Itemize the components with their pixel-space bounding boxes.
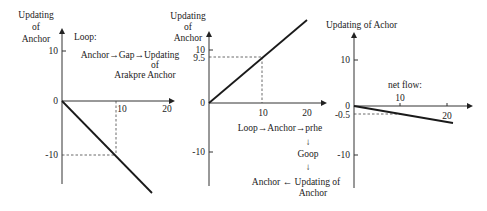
- y-axis-label-line1: Updating: [18, 10, 54, 20]
- x-tick-label-10: 10: [117, 104, 127, 114]
- figure: Updating of Anchor 10 0 -10 10 20 Loop: …: [0, 0, 487, 211]
- loop-heading: Loop:: [74, 32, 97, 42]
- y-axis-label-line3: Anchor: [174, 33, 203, 43]
- x-tick-label-20: 20: [302, 108, 312, 118]
- y-axis-label-line3: Anchor: [22, 34, 51, 44]
- chart-1: Updating of Anchor 10 0 -10 10 20 Loop: …: [18, 10, 179, 193]
- series-line: [354, 106, 453, 123]
- net-flow-label: net flow:: [388, 80, 422, 90]
- loop-text-line1: Anchor→Gap→Updating: [81, 50, 180, 60]
- loop-text-line2: of: [151, 60, 160, 70]
- y-tick-label-9-5: 9.5: [193, 53, 205, 63]
- loop-text-line3: Arakpre Anchor: [114, 70, 176, 80]
- y-axis-label-line1: Updating: [170, 11, 206, 21]
- y-axis-label: Updating of Achor: [326, 20, 398, 30]
- y-tick-label-10: 10: [49, 46, 59, 56]
- flow-arrow2: ↓: [306, 162, 311, 172]
- series-line: [62, 101, 152, 193]
- flow-row1: Loop→Anchor→prhe: [238, 123, 322, 133]
- y-tick-label-neg0-5: -0.5: [335, 110, 350, 120]
- flow-row2: Goop: [297, 149, 318, 159]
- y-tick-label-0: 0: [53, 96, 58, 106]
- y-tick-label-neg10: -10: [337, 150, 350, 160]
- y-tick-label-0: 0: [200, 98, 205, 108]
- chart-3: Updating of Achor 10 0 -0.5 -10 10 20 ne…: [326, 20, 470, 188]
- x-tick-label-20: 20: [162, 104, 172, 114]
- series-line: [209, 20, 307, 103]
- y-axis-label-line2: of: [184, 22, 193, 32]
- y-tick-label-neg10: -10: [45, 150, 58, 160]
- y-tick-label-neg10: -10: [192, 147, 205, 157]
- x-tick-label-10: 10: [258, 108, 268, 118]
- flow-arrow1: ↓: [306, 137, 311, 147]
- flow-row3: Anchor ← Updating of: [252, 177, 341, 187]
- flow-row4: Anchor: [299, 188, 328, 198]
- y-tick-label-10: 10: [341, 55, 351, 65]
- y-axis-label-line2: of: [32, 22, 41, 32]
- x-tick-label-10: 10: [395, 93, 405, 103]
- x-tick-label-20: 20: [442, 111, 452, 121]
- chart-2: Updating of Anchor 10 9.5 0 -10 10 20 Lo…: [170, 11, 341, 198]
